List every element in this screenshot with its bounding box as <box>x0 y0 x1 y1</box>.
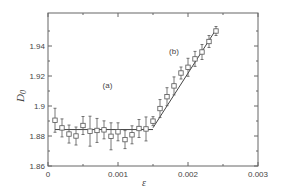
data-point-square <box>88 129 92 133</box>
data-point-square <box>74 134 78 138</box>
data-series <box>53 27 218 150</box>
data-point-square <box>179 71 183 75</box>
x-tick-label: 0.001 <box>108 170 129 179</box>
x-tick-label: 0 <box>46 170 51 179</box>
data-point-square <box>214 29 218 33</box>
data-point-square <box>165 95 169 99</box>
data-point-square <box>186 65 190 69</box>
data-point-square <box>200 50 204 54</box>
plot-border <box>48 13 258 166</box>
y-axis-label: D0 <box>14 90 28 103</box>
chart: 00.0010.0020.0031.861.881.91.921.94 εD0(… <box>0 0 281 193</box>
data-point-square <box>81 123 85 127</box>
data-point-square <box>116 130 120 134</box>
panel-label: (a) <box>103 81 113 90</box>
data-point-square <box>151 119 155 123</box>
data-point-square <box>144 127 148 131</box>
y-tick-label: 1.88 <box>29 132 45 141</box>
x-tick-label: 0.003 <box>248 170 269 179</box>
data-point-square <box>172 84 176 88</box>
axis-ticks: 00.0010.0020.0031.861.881.91.921.94 <box>29 13 268 179</box>
data-point-square <box>137 126 141 130</box>
x-tick-label: 0.002 <box>178 170 199 179</box>
fit-line <box>153 30 216 128</box>
data-point-square <box>193 57 197 61</box>
data-point-square <box>109 134 113 138</box>
x-axis-label: ε <box>142 177 146 188</box>
y-tick-label: 1.86 <box>29 162 45 171</box>
data-point-square <box>123 137 127 141</box>
y-tick-label: 1.92 <box>29 72 45 81</box>
data-point-square <box>67 132 71 136</box>
panel-label: (b) <box>169 47 179 56</box>
y-tick-label: 1.94 <box>29 42 45 51</box>
data-point-square <box>95 128 99 132</box>
data-point-square <box>60 126 64 130</box>
plot-frame <box>48 13 258 166</box>
data-point-square <box>102 128 106 132</box>
data-point-square <box>130 133 134 137</box>
data-point-square <box>158 106 162 110</box>
data-point-square <box>207 39 211 43</box>
y-tick-label: 1.9 <box>34 102 46 111</box>
data-point-square <box>53 118 57 122</box>
